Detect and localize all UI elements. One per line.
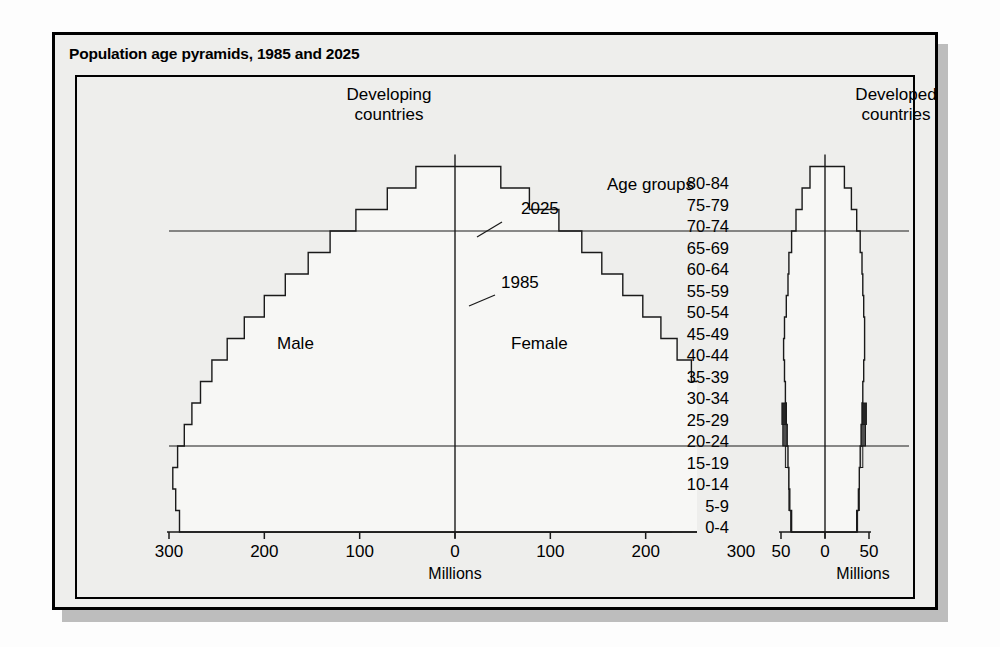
figure-outer-frame: Population age pyramids, 1985 and 2025 D…: [52, 32, 938, 610]
page-title: Population age pyramids, 1985 and 2025: [69, 45, 359, 63]
tick-label-developing-4: 100: [520, 542, 580, 562]
tick-label-developing-2: 100: [330, 542, 390, 562]
tick-label-developing-1: 200: [234, 542, 294, 562]
plot-inner-frame: Developing countries Developed countries: [75, 75, 915, 599]
developing-axis-title: Millions: [375, 565, 535, 583]
tick-label-developed-2: 50: [839, 542, 899, 562]
leader-line-2025: [477, 222, 502, 237]
tick-label-developing-5: 200: [616, 542, 676, 562]
figure-root: Population age pyramids, 1985 and 2025 D…: [0, 0, 1000, 647]
tick-label-developing-0: 300: [139, 542, 199, 562]
tick-label-developing-3: 0: [425, 542, 485, 562]
developed-axis-title: Millions: [783, 565, 943, 583]
annotation-leader-lines: [77, 77, 917, 601]
leader-line-1985: [469, 295, 495, 306]
